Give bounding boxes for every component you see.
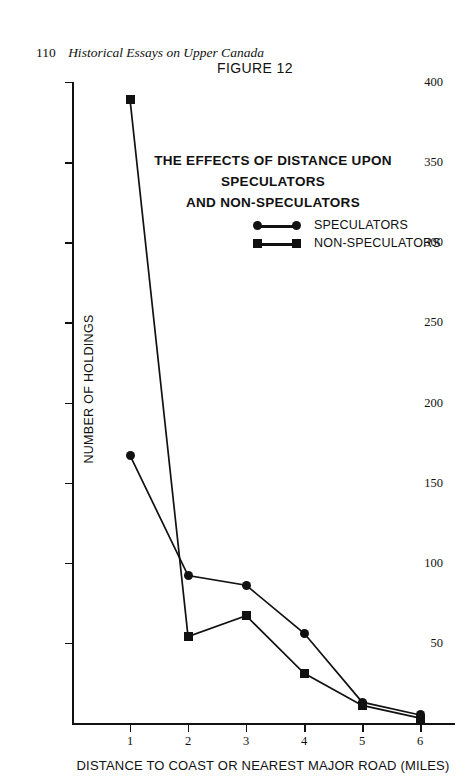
y-axis-title: NUMBER OF HOLDINGS [82,314,96,463]
y-tick [65,242,72,243]
square-marker-icon [416,714,425,723]
plot-area: 50100150200250300350400 123456 NUMBER OF… [72,82,455,727]
circle-marker-icon [184,571,193,580]
circle-marker-icon [126,451,135,460]
series-line-speculators [130,455,420,715]
y-tick [65,563,72,564]
y-tick [65,82,72,83]
y-tick [65,483,72,484]
x-axis-title: DISTANCE TO COAST OR NEAREST MAJOR ROAD … [63,758,463,773]
y-tick [65,162,72,163]
figure-12: FIGURE 12 THE EFFECTS OF DISTANCE UPON S… [0,0,472,779]
square-marker-icon [184,632,193,641]
figure-number-label: FIGURE 12 [195,60,315,76]
square-marker-icon [300,669,309,678]
series-line-non-speculators [130,100,420,719]
y-tick [65,403,72,404]
circle-marker-icon [242,581,251,590]
y-tick [65,643,72,644]
data-series-layer [72,82,455,742]
square-marker-icon [126,95,135,104]
square-marker-icon [358,701,367,710]
circle-marker-icon [300,629,309,638]
y-tick [65,322,72,323]
square-marker-icon [242,611,251,620]
